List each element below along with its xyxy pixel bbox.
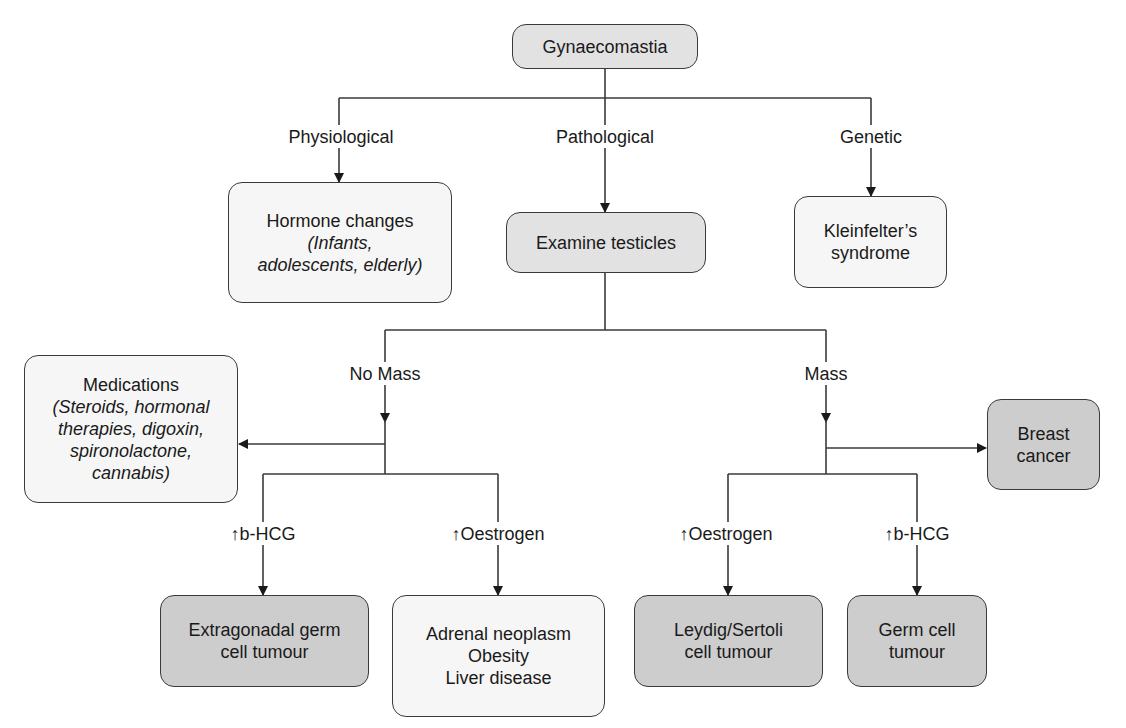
node-label: Examine testicles [536, 232, 676, 254]
node-germ-cell-tumour: Germ cell tumour [847, 595, 987, 687]
node-breast-cancer: Breast cancer [987, 399, 1100, 490]
edge-label-mass-oestrogen: ↑Oestrogen [676, 524, 775, 544]
branch-label-pathological: Pathological [553, 127, 657, 147]
node-detail: (Steroids, hormonal [52, 396, 209, 418]
node-kleinfelters-syndrome: Kleinfelter’s syndrome [794, 196, 947, 288]
node-label: Gynaecomastia [542, 36, 667, 58]
node-detail: (Infants, [307, 232, 372, 254]
node-detail: cannabis) [92, 462, 170, 484]
node-detail: adolescents, elderly) [257, 254, 422, 276]
node-line: Extragonadal germ [188, 619, 340, 641]
node-detail: spironolactone, [70, 440, 192, 462]
node-title: Medications [83, 374, 179, 396]
edge-label-no-mass-oestrogen: ↑Oestrogen [448, 524, 547, 544]
branch-label-physiological: Physiological [285, 127, 396, 147]
node-title: Hormone changes [266, 210, 413, 232]
node-line: syndrome [831, 242, 910, 264]
node-line: tumour [889, 641, 945, 663]
node-detail: therapies, digoxin, [58, 418, 204, 440]
node-line: cell tumour [220, 641, 308, 663]
node-line: Obesity [468, 645, 529, 667]
node-line: cancer [1016, 445, 1070, 467]
node-line: Liver disease [445, 667, 551, 689]
node-gynaecomastia: Gynaecomastia [512, 24, 698, 69]
node-line: Leydig/Sertoli [674, 619, 783, 641]
node-line: Kleinfelter’s [824, 220, 917, 242]
node-line: Germ cell [878, 619, 955, 641]
edge-label-mass: Mass [801, 364, 850, 384]
edge-label-no-mass-bhcg: ↑b-HCG [227, 524, 298, 544]
node-line: Breast [1017, 423, 1069, 445]
node-line: cell tumour [684, 641, 772, 663]
node-adrenal-obesity-liver: Adrenal neoplasm Obesity Liver disease [392, 595, 605, 717]
edge-label-mass-bhcg: ↑b-HCG [881, 524, 952, 544]
node-medications: Medications (Steroids, hormonal therapie… [24, 355, 238, 503]
node-hormone-changes: Hormone changes (Infants, adolescents, e… [228, 182, 452, 303]
node-examine-testicles: Examine testicles [506, 212, 706, 273]
node-extragonadal-germ-cell-tumour: Extragonadal germ cell tumour [160, 595, 369, 687]
node-line: Adrenal neoplasm [426, 623, 571, 645]
edge-label-no-mass: No Mass [346, 364, 423, 384]
node-leydig-sertoli-cell-tumour: Leydig/Sertoli cell tumour [634, 595, 823, 687]
branch-label-genetic: Genetic [837, 127, 905, 147]
